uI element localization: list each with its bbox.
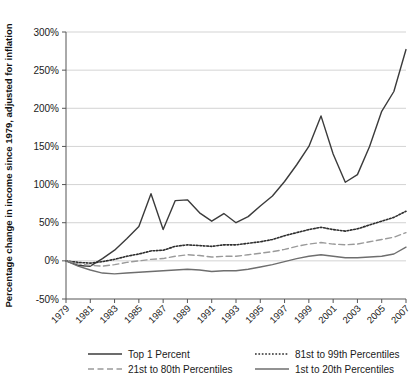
x-tick-label: 1989 xyxy=(170,303,193,326)
x-tick-label: 1993 xyxy=(219,303,242,326)
legend-label: 81st to 99th Percentiles xyxy=(295,349,400,360)
x-tick-label: 1985 xyxy=(122,303,145,326)
x-tick-label: 1983 xyxy=(97,303,120,326)
y-tick-label: 300% xyxy=(33,27,59,38)
line-chart: -50%0%50%100%150%200%250%300% 1979198119… xyxy=(0,0,414,381)
x-tick-label: 1997 xyxy=(267,303,290,326)
y-axis-title: Percentage change in income since 1979, … xyxy=(3,23,14,307)
x-tick-label: 2001 xyxy=(316,303,339,326)
series-line xyxy=(66,211,406,263)
y-tick-label: 200% xyxy=(33,103,59,114)
chart-legend: Top 1 Percent81st to 99th Percentiles21s… xyxy=(88,349,400,375)
x-tick-label: 1979 xyxy=(49,303,72,326)
chart-container: -50%0%50%100%150%200%250%300% 1979198119… xyxy=(0,0,414,381)
data-series xyxy=(66,50,406,274)
x-tick-label: 1995 xyxy=(243,303,266,326)
x-tick-label: 1999 xyxy=(292,303,315,326)
legend-label: 21st to 80th Percentiles xyxy=(128,364,233,375)
legend-label: 1st to 20th Percentiles xyxy=(295,364,394,375)
x-tick-label: 2003 xyxy=(340,303,363,326)
x-tick-label: 1991 xyxy=(194,303,217,326)
y-tick-label: 0% xyxy=(45,255,60,266)
x-tick-label: 1981 xyxy=(73,303,96,326)
gridlines xyxy=(66,32,406,261)
x-axis-ticks: 1979198119831985198719891991199319951997… xyxy=(49,299,412,325)
series-line xyxy=(66,50,406,267)
y-axis-ticks: -50%0%50%100%150%200%250%300% xyxy=(33,27,66,305)
y-tick-label: 250% xyxy=(33,65,59,76)
x-tick-label: 1987 xyxy=(146,303,169,326)
y-tick-label: -50% xyxy=(36,294,59,305)
y-tick-label: 150% xyxy=(33,141,59,152)
x-tick-label: 2005 xyxy=(364,303,387,326)
y-tick-label: 50% xyxy=(39,217,59,228)
x-tick-label: 2007 xyxy=(389,303,412,326)
y-axis-title-text: Percentage change in income since 1979, … xyxy=(3,23,14,307)
y-tick-label: 100% xyxy=(33,179,59,190)
legend-label: Top 1 Percent xyxy=(128,349,190,360)
